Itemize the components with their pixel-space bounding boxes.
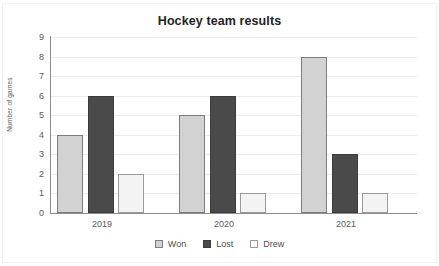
- legend-label: Drew: [263, 239, 284, 249]
- y-tick-label: 3: [4, 149, 44, 159]
- legend-item-drew[interactable]: Drew: [250, 239, 284, 249]
- chart-figure: Hockey team results Number of games 0123…: [0, 0, 439, 266]
- y-tick-label: 5: [4, 110, 44, 120]
- bar-won-2020: [179, 115, 205, 213]
- chart-legend: WonLostDrew: [0, 239, 439, 249]
- gridline: [51, 57, 417, 58]
- bar-won-2021: [301, 57, 327, 213]
- won-swatch-icon: [155, 240, 163, 248]
- y-tick-label: 2: [4, 169, 44, 179]
- bar-drew-2019: [118, 174, 144, 213]
- bar-drew-2021: [362, 193, 388, 213]
- x-tick-label-2019: 2019: [62, 219, 142, 229]
- gridline: [51, 37, 417, 38]
- y-tick-label: 4: [4, 130, 44, 140]
- chart-title: Hockey team results: [0, 14, 439, 28]
- y-axis-tick-labels: 0123456789: [0, 37, 44, 213]
- lost-swatch-icon: [203, 240, 211, 248]
- gridline: [51, 76, 417, 77]
- bar-lost-2020: [210, 96, 236, 213]
- bar-lost-2019: [88, 96, 114, 213]
- bar-drew-2020: [240, 193, 266, 213]
- x-axis-tick-labels: 201920202021: [51, 219, 417, 233]
- legend-label: Lost: [216, 239, 233, 249]
- x-axis-line: [51, 213, 417, 214]
- y-tick-label: 6: [4, 91, 44, 101]
- plot-area: [51, 37, 417, 213]
- legend-item-lost[interactable]: Lost: [203, 239, 233, 249]
- legend-label: Won: [168, 239, 186, 249]
- y-tick-label: 0: [4, 208, 44, 218]
- bar-won-2019: [57, 135, 83, 213]
- y-tick-label: 1: [4, 188, 44, 198]
- y-tick-label: 8: [4, 52, 44, 62]
- drew-swatch-icon: [250, 240, 258, 248]
- x-tick-label-2021: 2021: [306, 219, 386, 229]
- y-tick-label: 9: [4, 32, 44, 42]
- legend-item-won[interactable]: Won: [155, 239, 186, 249]
- x-tick-label-2020: 2020: [184, 219, 264, 229]
- bar-lost-2021: [332, 154, 358, 213]
- y-tick-label: 7: [4, 71, 44, 81]
